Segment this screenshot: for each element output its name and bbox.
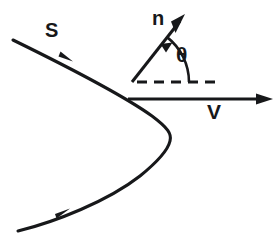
normal-vector-label: n xyxy=(152,8,164,28)
shock-curve-direction-arrowhead-upper xyxy=(59,52,74,62)
diagram-canvas xyxy=(0,0,278,234)
angle-label: θ xyxy=(176,44,187,65)
shock-geometry-diagram: S n θ V xyxy=(0,0,278,234)
normal-vector-shaft xyxy=(132,21,180,82)
shock-curve xyxy=(13,40,170,231)
velocity-vector-label: V xyxy=(207,101,221,122)
velocity-vector-arrowhead xyxy=(256,94,273,105)
shock-curve-label: S xyxy=(45,20,58,40)
